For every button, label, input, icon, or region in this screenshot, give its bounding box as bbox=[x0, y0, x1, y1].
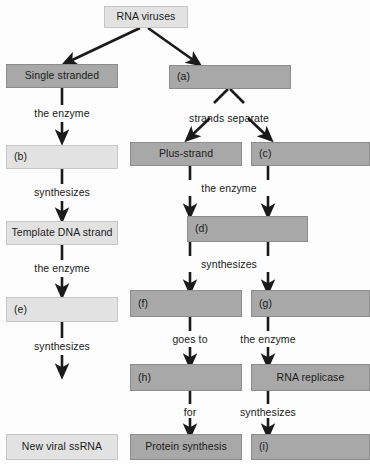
node-g[interactable]: (g) bbox=[251, 290, 370, 317]
edge-label-text: the enzyme bbox=[240, 333, 295, 345]
node-i-label: (i) bbox=[259, 441, 269, 453]
edge-label-text: for bbox=[184, 406, 197, 418]
node-h-label: (h) bbox=[138, 372, 151, 384]
node-protein-synthesis[interactable]: Protein synthesis bbox=[130, 434, 242, 460]
edge-label-goes-to: goes to bbox=[172, 333, 207, 345]
node-rna-replicase[interactable]: RNA replicase bbox=[251, 364, 370, 391]
node-a[interactable]: (a) bbox=[169, 65, 291, 89]
node-e-label: (e) bbox=[14, 304, 27, 316]
edge-label-the-enzyme-mid-1: the enzyme bbox=[201, 182, 256, 194]
edge-label-text: synthesizes bbox=[34, 186, 90, 198]
node-c-label: (c) bbox=[259, 148, 272, 160]
edge-a-to-split-left bbox=[214, 89, 228, 103]
node-d-label: (d) bbox=[195, 223, 208, 235]
edge-label-text: goes to bbox=[172, 333, 207, 345]
edge-label-text: synthesizes bbox=[34, 340, 90, 352]
edge-label-text: the enzyme bbox=[201, 182, 256, 194]
edge-label-text: synthesizes bbox=[240, 406, 296, 418]
node-a-label: (a) bbox=[177, 71, 190, 83]
edge-rnaviruses-to-a bbox=[148, 28, 196, 62]
edge-label-synthesizes-mid-1: synthesizes bbox=[201, 258, 257, 270]
node-g-label: (g) bbox=[259, 298, 272, 310]
edge-label-synthesizes-left-1: synthesizes bbox=[34, 186, 90, 198]
node-f[interactable]: (f) bbox=[130, 290, 242, 317]
flowchart-canvas: RNA viruses Single stranded (a) (b) Plus… bbox=[0, 0, 370, 464]
node-d[interactable]: (d) bbox=[187, 216, 308, 242]
edge-label-text: the enzyme bbox=[34, 262, 89, 274]
edge-label-synthesizes-right-1: synthesizes bbox=[240, 406, 296, 418]
node-template-dna-strand[interactable]: Template DNA strand bbox=[6, 221, 118, 245]
edge-a-to-split-right bbox=[230, 89, 244, 103]
node-single-stranded-label: Single stranded bbox=[25, 70, 99, 82]
node-f-label: (f) bbox=[138, 298, 148, 310]
edge-label-the-enzyme-right-1: the enzyme bbox=[240, 333, 295, 345]
edge-label-synthesizes-left-2: synthesizes bbox=[34, 340, 90, 352]
edge-rnaviruses-to-singlestranded bbox=[68, 28, 140, 62]
node-b[interactable]: (b) bbox=[6, 145, 118, 169]
node-rna-viruses[interactable]: RNA viruses bbox=[104, 6, 188, 28]
node-new-viral-ssrna-label: New viral ssRNA bbox=[22, 441, 102, 453]
edge-label-the-enzyme-left-1: the enzyme bbox=[34, 107, 89, 119]
node-plus-strand-label: Plus-strand bbox=[159, 148, 213, 160]
node-e[interactable]: (e) bbox=[6, 297, 118, 322]
node-h[interactable]: (h) bbox=[130, 364, 242, 391]
node-rna-viruses-label: RNA viruses bbox=[117, 11, 176, 23]
node-plus-strand[interactable]: Plus-strand bbox=[130, 142, 242, 166]
edge-label-the-enzyme-left-2: the enzyme bbox=[34, 262, 89, 274]
node-rna-replicase-label: RNA replicase bbox=[277, 372, 345, 384]
edge-label-text: synthesizes bbox=[201, 258, 257, 270]
node-new-viral-ssrna[interactable]: New viral ssRNA bbox=[6, 434, 118, 460]
edge-label-for: for bbox=[184, 406, 197, 418]
node-single-stranded[interactable]: Single stranded bbox=[6, 64, 118, 88]
node-protein-synthesis-label: Protein synthesis bbox=[145, 441, 227, 453]
node-b-label: (b) bbox=[14, 151, 27, 163]
edge-label-strands-separate: strands separate bbox=[189, 112, 269, 124]
edge-label-text: strands separate bbox=[189, 112, 269, 124]
node-c[interactable]: (c) bbox=[251, 142, 370, 166]
edge-label-text: the enzyme bbox=[34, 107, 89, 119]
node-template-dna-strand-label: Template DNA strand bbox=[11, 227, 112, 239]
node-i[interactable]: (i) bbox=[251, 434, 370, 460]
